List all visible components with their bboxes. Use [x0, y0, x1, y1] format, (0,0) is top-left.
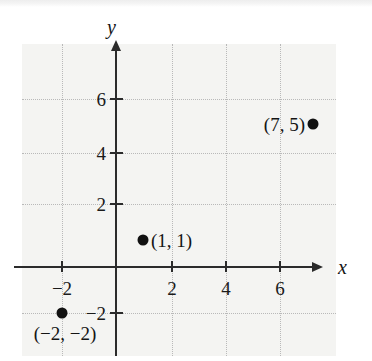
y-tick-mark-2 [110, 203, 123, 205]
gridline-horizontal-y-2 [22, 204, 336, 205]
gridline-vertical-x-2 [172, 44, 173, 356]
y-tick-mark-4 [110, 152, 123, 154]
y-tick-label-6: 6 [88, 90, 106, 109]
x-tick-mark-6 [279, 261, 281, 272]
x-tick-mark-2 [171, 261, 173, 272]
y-tick-label-2: 2 [88, 195, 106, 214]
y-axis-arrowhead [111, 40, 121, 51]
data-point-7-5 [308, 119, 319, 130]
data-point-neg2-neg2 [57, 308, 68, 319]
y-tick-mark-6 [110, 98, 123, 100]
x-tick-mark-neg2 [61, 261, 63, 272]
gridline-horizontal-y-6 [22, 99, 336, 100]
x-tick-label-4: 4 [221, 279, 231, 298]
x-tick-label-2: 2 [167, 279, 177, 298]
gridline-vertical-x-4 [226, 44, 227, 356]
x-tick-mark-4 [225, 261, 227, 272]
gridline-vertical-x-6 [280, 44, 281, 356]
x-axis-arrowhead [312, 262, 323, 272]
data-point-label-7-5: (7, 5) [264, 115, 305, 134]
gridline-horizontal-y-neg2 [22, 313, 336, 314]
scan-artifact-band [0, 0, 372, 7]
data-point-label-1-1: (1, 1) [151, 231, 192, 250]
data-point-1-1 [138, 235, 149, 246]
y-axis-label: y [107, 17, 116, 37]
plot-panel [22, 44, 336, 356]
y-tick-label-4: 4 [88, 144, 106, 163]
coordinate-plane-figure: x y −2 2 4 6 6 4 2 −2 (7, 5) (1, 1) (−2,… [0, 0, 372, 361]
data-point-label-neg2-neg2: (−2, −2) [34, 324, 97, 343]
x-axis-line [14, 266, 314, 268]
x-tick-label-6: 6 [275, 279, 285, 298]
gridline-horizontal-y-4 [22, 153, 336, 154]
x-axis-label: x [338, 257, 347, 277]
y-tick-mark-neg2 [110, 312, 123, 314]
x-tick-label-neg2: −2 [52, 279, 72, 298]
y-tick-label-neg2: −2 [80, 304, 106, 323]
